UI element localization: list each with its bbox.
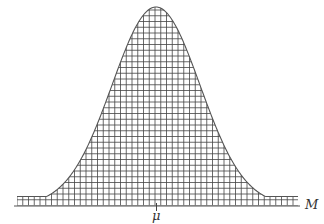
x-axis-label: M bbox=[305, 197, 318, 212]
grid-fill bbox=[17, 0, 298, 206]
mean-label: μ bbox=[152, 208, 160, 223]
normal-distribution-chart bbox=[0, 0, 324, 224]
